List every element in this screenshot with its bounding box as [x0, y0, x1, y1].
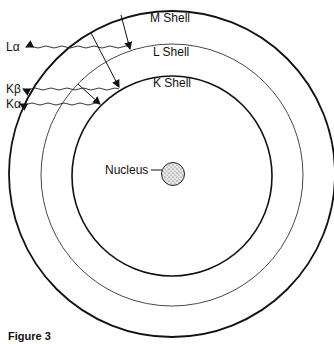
nucleus-label: Nucleus: [105, 163, 148, 177]
k-beta-label: Kβ: [6, 82, 21, 96]
m-shell-label: M Shell: [150, 11, 190, 25]
k-shell-label: K Shell: [153, 76, 191, 90]
l-shell-label: L Shell: [153, 45, 189, 59]
k-beta-wave: [23, 88, 119, 90]
arrow-m-to-l: [121, 15, 130, 49]
k-alpha-wave: [20, 103, 100, 105]
atom-diagram: M Shell L Shell K Shell Nucleus Lα Kβ Kα: [0, 0, 334, 344]
arrow-l-to-k: [78, 84, 100, 104]
figure-caption: Figure 3: [8, 330, 51, 342]
l-alpha-wave: [26, 46, 130, 48]
nucleus: [162, 163, 185, 186]
l-alpha-label: Lα: [6, 40, 20, 54]
k-alpha-label: Kα: [6, 97, 21, 111]
arrow-m-to-k: [91, 33, 119, 87]
